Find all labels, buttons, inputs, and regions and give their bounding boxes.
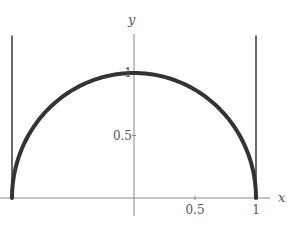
y-tick-label: 0.5 xyxy=(113,129,132,143)
x-axis-label: x xyxy=(278,190,286,205)
y-tick-label: 1 xyxy=(124,66,132,80)
chart: xy0.510.51 xyxy=(0,0,298,250)
x-tick-label: 0.5 xyxy=(185,203,204,217)
y-axis-label: y xyxy=(127,12,136,27)
x-tick-label: 1 xyxy=(252,203,260,217)
